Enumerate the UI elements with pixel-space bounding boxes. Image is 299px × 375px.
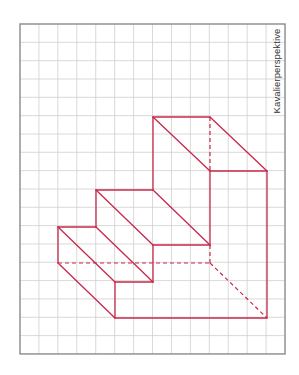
diagram-title-label: Kavalierperspektive — [271, 29, 282, 114]
cavalier-perspective-diagram: Kavalierperspektive — [0, 0, 299, 375]
grid-drawing — [0, 0, 299, 375]
staircase-hidden-edges — [58, 117, 267, 318]
